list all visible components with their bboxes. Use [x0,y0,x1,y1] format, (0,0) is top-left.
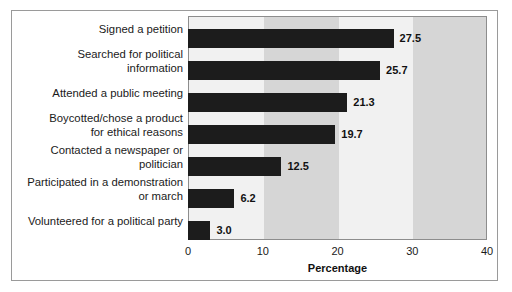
bar-contacted-a-newspaper-or-politician [188,157,281,176]
bar-row: 25.7 [188,56,487,86]
category-label-searched-for-political-information: Searched for political information [0,48,183,75]
category-label-volunteered-for-a-political-party: Volunteered for a political party [0,215,183,229]
bar-value-label: 19.7 [341,125,362,144]
category-label-signed-a-petition: Signed a petition [0,23,183,37]
bar-series: 27.5 25.7 21.3 19.7 12.5 6.2 3.0 [188,16,487,240]
bar-row: 6.2 [188,184,487,214]
category-label-participated-in-a-demonstration: Participated in a demonstration or march [0,176,183,203]
bar-boycotted-chose-a-product [188,125,335,144]
bar-value-label: 21.3 [353,93,374,112]
bar-value-label: 25.7 [386,61,407,80]
chart-figure: 27.5 25.7 21.3 19.7 12.5 6.2 3.0 Signed … [0,0,512,292]
xtick-10: 10 [243,245,283,257]
xtick-20: 20 [318,245,358,257]
x-axis-title: Percentage [188,262,487,274]
category-label-boycotted-chose-a-product: Boycotted/chose a product for ethical re… [0,112,183,139]
category-label-contacted-a-newspaper-or-politician: Contacted a newspaper or politician [0,144,183,171]
xtick-40: 40 [467,245,507,257]
bar-row: 12.5 [188,152,487,182]
bar-value-label: 12.5 [287,157,308,176]
category-label-attended-a-public-meeting: Attended a public meeting [0,87,183,101]
bar-volunteered-for-a-political-party [188,221,210,240]
bar-row: 19.7 [188,120,487,150]
xtick-0: 0 [168,245,208,257]
bar-value-label: 3.0 [216,221,231,240]
xtick-30: 30 [392,245,432,257]
bar-value-label: 27.5 [400,29,421,48]
bar-searched-for-political-information [188,61,380,80]
bar-row: 21.3 [188,88,487,118]
bar-signed-a-petition [188,29,394,48]
bar-row: 3.0 [188,216,487,246]
bar-participated-in-a-demonstration [188,189,234,208]
bar-value-label: 6.2 [240,189,255,208]
bar-attended-a-public-meeting [188,93,347,112]
bar-row: 27.5 [188,24,487,54]
